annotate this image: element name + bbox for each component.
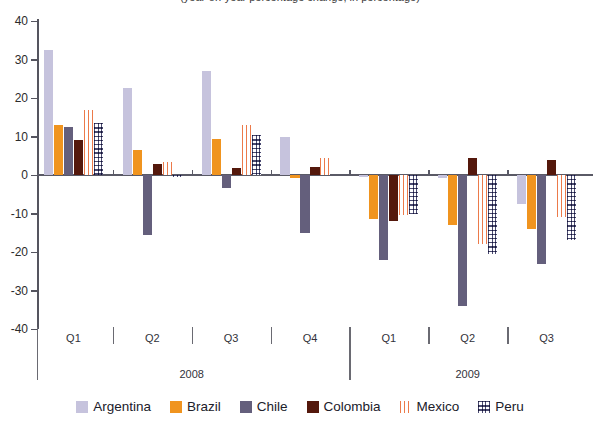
legend-item-chile[interactable]: Chile xyxy=(240,400,288,414)
bar-peru-2009-q3 xyxy=(567,175,576,240)
x-axis-group-tick xyxy=(428,170,429,176)
year-separator xyxy=(37,327,38,380)
bar-brazil-2008-q4 xyxy=(290,175,299,178)
bar-argentina-2008-q1 xyxy=(44,50,53,175)
bar-chile-2008-q3 xyxy=(222,175,231,188)
bar-peru-2009-q1 xyxy=(409,175,418,214)
bar-mexico-2008-q3 xyxy=(242,125,251,175)
bar-colombia-2008-q1 xyxy=(74,140,83,175)
bar-brazil-2009-q1 xyxy=(369,175,378,219)
legend-label: Colombia xyxy=(324,400,381,414)
bar-peru-2008-q2 xyxy=(173,175,182,177)
bar-argentina-2009-q3 xyxy=(517,175,526,204)
bar-mexico-2009-q1 xyxy=(399,175,408,215)
bar-chile-2008-q1 xyxy=(64,127,73,175)
legend-swatch-icon xyxy=(170,401,182,413)
legend-item-brazil[interactable]: Brazil xyxy=(170,400,221,414)
x-axis-group-tick xyxy=(349,170,350,176)
bar-mexico-2008-q2 xyxy=(163,162,172,175)
bar-brazil-2008-q1 xyxy=(54,125,63,175)
bar-chart: (year-on-year percentage change, in perc… xyxy=(0,0,600,421)
legend-item-peru[interactable]: Peru xyxy=(478,400,524,414)
bar-argentina-2009-q2 xyxy=(438,175,447,178)
plot-area xyxy=(0,0,600,421)
legend-label: Brazil xyxy=(187,400,221,414)
legend-swatch-icon xyxy=(478,401,490,413)
legend-label: Mexico xyxy=(417,400,460,414)
x-axis-quarter-label: Q4 xyxy=(290,333,330,344)
x-axis-group-tick xyxy=(113,170,114,176)
bar-colombia-2009-q1 xyxy=(389,175,398,221)
bar-brazil-2008-q2 xyxy=(133,150,142,175)
bar-chile-2008-q2 xyxy=(143,175,152,235)
legend-label: Chile xyxy=(257,400,288,414)
bar-argentina-2009-q1 xyxy=(359,175,368,177)
x-axis-year-label: 2008 xyxy=(167,369,217,380)
x-axis-group-tick xyxy=(192,170,193,176)
quarter-separator xyxy=(507,327,508,344)
legend-swatch-icon xyxy=(76,401,88,413)
bar-argentina-2008-q4 xyxy=(280,137,289,176)
quarter-separator xyxy=(192,327,193,344)
bar-brazil-2008-q3 xyxy=(212,139,221,175)
x-axis-year-label: 2009 xyxy=(443,369,493,380)
legend-swatch-icon xyxy=(307,401,319,413)
bar-argentina-2008-q3 xyxy=(202,71,211,175)
legend-item-mexico[interactable]: Mexico xyxy=(400,400,460,414)
legend-label: Peru xyxy=(495,400,524,414)
x-axis-quarter-label: Q1 xyxy=(369,333,409,344)
legend-label: Argentina xyxy=(93,400,151,414)
bar-mexico-2008-q1 xyxy=(84,110,93,175)
year-separator xyxy=(349,327,350,380)
bar-colombia-2008-q2 xyxy=(153,164,162,175)
x-axis-quarter-label: Q2 xyxy=(448,333,488,344)
x-axis-group-tick xyxy=(271,170,272,176)
bar-chile-2009-q2 xyxy=(458,175,467,306)
legend-item-argentina[interactable]: Argentina xyxy=(76,400,151,414)
x-axis-quarter-label: Q3 xyxy=(211,333,251,344)
bar-chile-2009-q1 xyxy=(379,175,388,260)
bar-peru-2008-q3 xyxy=(252,135,261,175)
bar-colombia-2009-q2 xyxy=(468,158,477,175)
bar-chile-2008-q4 xyxy=(300,175,309,233)
bar-mexico-2008-q4 xyxy=(320,158,329,175)
bar-chile-2009-q3 xyxy=(537,175,546,264)
legend-swatch-icon xyxy=(400,401,412,413)
legend-swatch-icon xyxy=(240,401,252,413)
quarter-separator xyxy=(113,327,114,344)
bar-mexico-2009-q2 xyxy=(478,175,487,244)
bar-brazil-2009-q3 xyxy=(527,175,536,229)
x-axis-group-tick xyxy=(507,170,508,176)
quarter-separator xyxy=(271,327,272,344)
x-axis-quarter-label: Q1 xyxy=(53,333,93,344)
bar-brazil-2009-q2 xyxy=(448,175,457,225)
x-axis-quarter-label: Q2 xyxy=(132,333,172,344)
quarter-separator xyxy=(428,327,429,344)
x-axis-quarter-label: Q3 xyxy=(527,333,567,344)
bar-colombia-2009-q3 xyxy=(547,160,556,175)
chart-legend: ArgentinaBrazilChileColombiaMexicoPeru xyxy=(0,396,600,418)
bar-colombia-2008-q3 xyxy=(232,168,241,175)
bar-peru-2008-q1 xyxy=(94,123,103,175)
bar-colombia-2008-q4 xyxy=(310,167,319,175)
bar-peru-2009-q2 xyxy=(488,175,497,254)
legend-item-colombia[interactable]: Colombia xyxy=(307,400,381,414)
bar-argentina-2008-q2 xyxy=(123,88,132,175)
bar-mexico-2009-q3 xyxy=(557,175,566,217)
